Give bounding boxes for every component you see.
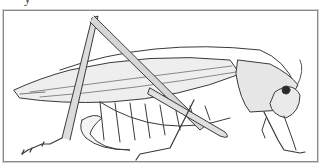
katydid-illustration	[0, 0, 323, 166]
